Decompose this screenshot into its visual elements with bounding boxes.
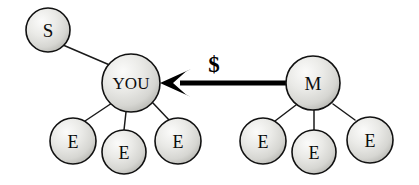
node-label-e2: E	[119, 143, 130, 163]
node-label-e6: E	[365, 131, 376, 151]
node-label-e1: E	[68, 132, 79, 152]
node-you[interactable]: YOU	[102, 54, 160, 112]
node-label-m: M	[305, 73, 322, 94]
node-e6[interactable]: E	[347, 117, 393, 163]
edge-m-e4	[275, 105, 296, 121]
node-label-e5: E	[309, 143, 320, 163]
nodes-layer: SYOUMEEEEEE	[26, 8, 393, 174]
node-e2[interactable]: E	[102, 130, 146, 174]
node-label-e3: E	[173, 132, 184, 152]
money-arrow-label: $	[208, 52, 220, 77]
node-label-e4: E	[258, 132, 269, 152]
edge-you-e3	[152, 102, 170, 121]
edge-you-e2	[124, 112, 126, 130]
node-m[interactable]: M	[286, 56, 340, 110]
node-e5[interactable]: E	[292, 130, 336, 174]
edge-m-e6	[333, 104, 355, 120]
edge-s-you	[63, 45, 112, 66]
network-diagram-canvas: $ SYOUMEEEEEE	[0, 0, 419, 185]
node-e1[interactable]: E	[50, 118, 96, 164]
money-arrow-layer: $	[160, 52, 288, 98]
node-label-s: S	[43, 20, 54, 41]
node-e4[interactable]: E	[240, 118, 286, 164]
node-label-you: YOU	[113, 74, 150, 93]
diagram-root: $ SYOUMEEEEEE	[0, 0, 419, 185]
node-s[interactable]: S	[26, 8, 70, 52]
node-e3[interactable]: E	[155, 118, 201, 164]
edge-you-e1	[85, 103, 112, 121]
